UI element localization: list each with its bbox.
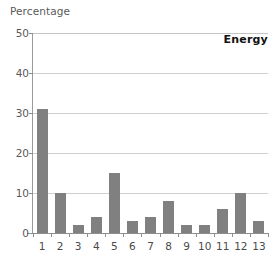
bar (145, 217, 156, 233)
x-tick-mark (69, 233, 70, 237)
bar (127, 221, 138, 233)
y-tick-label: 40 (0, 67, 29, 79)
y-tick-mark (29, 153, 33, 154)
y-tick-label: 10 (0, 187, 29, 199)
y-tick-mark (29, 113, 33, 114)
x-tick-mark (178, 233, 179, 237)
bar-chart-figure: Percentage Energy 01020304050 1234567891… (0, 0, 272, 260)
x-tick-mark (87, 233, 88, 237)
x-tick-mark (33, 233, 34, 237)
x-tick-mark (123, 233, 124, 237)
x-tick-mark (232, 233, 233, 237)
plot-area (33, 33, 268, 233)
y-tick-mark (29, 73, 33, 74)
bar (91, 217, 102, 233)
y-tick-label: 20 (0, 147, 29, 159)
x-tick-mark (196, 233, 197, 237)
bar (181, 225, 192, 233)
x-tick-mark (250, 233, 251, 237)
x-tick-mark (160, 233, 161, 237)
x-tick-mark (105, 233, 106, 237)
y-tick-label: 50 (0, 27, 29, 39)
bar (73, 225, 84, 233)
bar (109, 173, 120, 233)
x-tick-mark (214, 233, 215, 237)
y-tick-label: 0 (0, 227, 29, 239)
bar (199, 225, 210, 233)
y-axis-label: Percentage (10, 5, 70, 17)
x-tick-label: 13 (248, 240, 270, 252)
y-tick-label: 30 (0, 107, 29, 119)
bar (253, 221, 264, 233)
bar (217, 209, 228, 233)
x-tick-mark (141, 233, 142, 237)
bars-group (33, 33, 268, 233)
bar (55, 193, 66, 233)
y-tick-mark (29, 33, 33, 34)
x-tick-mark (268, 233, 269, 237)
bar (235, 193, 246, 233)
bar (37, 109, 48, 233)
bar (163, 201, 174, 233)
y-tick-mark (29, 193, 33, 194)
x-tick-mark (51, 233, 52, 237)
